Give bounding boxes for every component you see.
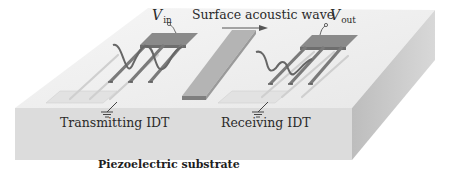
wave-label: Surface acoustic wave xyxy=(192,9,334,22)
substrate-label: Piezoelectric substrate xyxy=(98,159,240,170)
center-block-front xyxy=(182,96,206,100)
receiving-idt-label: Receiving IDT xyxy=(221,117,311,130)
saw-diagram: Vin Vout Surface acoustic wave Transmitt… xyxy=(0,0,456,189)
v-in-label: Vin xyxy=(152,8,172,25)
transmitting-idt-label: Transmitting IDT xyxy=(60,117,169,130)
substrate xyxy=(15,8,435,160)
